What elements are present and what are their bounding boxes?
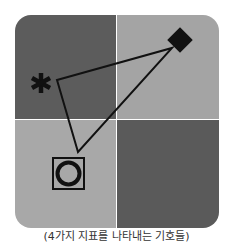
circle-in-square-icon (53, 158, 84, 189)
asterisk-icon (32, 73, 50, 93)
connector-triangle (57, 48, 172, 152)
caption: (4가지 지표를 나타내는 기호들) (0, 230, 233, 244)
